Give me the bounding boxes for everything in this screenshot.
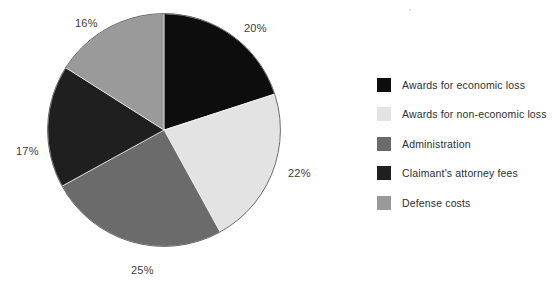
slice-label-claimants-attorney-fees: 17% — [16, 145, 39, 157]
slice-label-administration: 25% — [131, 264, 154, 276]
pie-slice-group — [48, 14, 281, 247]
legend-swatch-administration — [377, 137, 391, 151]
legend-item-claimant-s-attorney-fees[interactable]: Claimant's attorney fees — [377, 159, 552, 189]
legend-label-claimant-s-attorney-fees: Claimant's attorney fees — [402, 167, 518, 179]
slice-label-awards-for-non-economic-loss: 22% — [288, 167, 311, 179]
legend-item-administration[interactable]: Administration — [377, 129, 552, 159]
slice-label-awards-for-economic-loss: 20% — [244, 22, 267, 34]
pie-chart-svg — [47, 13, 281, 247]
legend-swatch-awards-for-non-economic-loss — [377, 107, 391, 121]
legend-item-awards-for-non-economic-loss[interactable]: Awards for non-economic loss — [377, 100, 552, 130]
legend-swatch-defense-costs — [377, 196, 391, 210]
legend-label-defense-costs: Defense costs — [402, 197, 470, 209]
legend-item-defense-costs[interactable]: Defense costs — [377, 188, 552, 218]
chart-legend: Awards for economic lossAwards for non-e… — [377, 70, 552, 218]
slice-label-defense-costs: 16% — [75, 17, 98, 29]
legend-swatch-claimant-s-attorney-fees — [377, 166, 391, 180]
legend-label-administration: Administration — [402, 138, 471, 150]
artifact-speck — [409, 9, 411, 11]
legend-label-awards-for-non-economic-loss: Awards for non-economic loss — [402, 108, 547, 120]
legend-item-awards-for-economic-loss[interactable]: Awards for economic loss — [377, 70, 552, 100]
pie-chart-figure: 20% 22% 25% 17% 16% Awards for economic … — [0, 0, 556, 291]
legend-swatch-awards-for-economic-loss — [377, 78, 391, 92]
legend-label-awards-for-economic-loss: Awards for economic loss — [402, 79, 525, 91]
pie-chart-plot-area — [47, 13, 281, 247]
